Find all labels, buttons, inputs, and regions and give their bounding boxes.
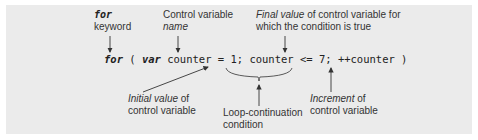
arrows-layer — [0, 0, 478, 140]
arrow-diagonal-icon — [143, 67, 208, 92]
brace-icon — [226, 68, 292, 81]
